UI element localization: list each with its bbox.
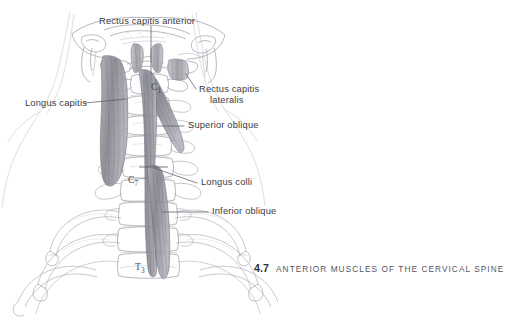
muscle-longus-capitis	[100, 56, 127, 186]
vertebra-marker-t3: T3	[135, 261, 145, 275]
vertebra-marker-c7-letter: C	[128, 174, 135, 185]
label-rectus-capitis-lateralis-line1: Rectus capitis	[199, 84, 259, 94]
label-inferior-oblique: Inferior oblique	[212, 206, 276, 217]
muscle-rectus-capitis-anterior	[131, 44, 163, 73]
label-rectus-capitis-anterior: Rectus capitis anterior	[99, 16, 195, 27]
figure-caption: 4.7 ANTERIOR MUSCLES OF THE CERVICAL SPI…	[254, 262, 504, 274]
vertebra-marker-c7: C7	[128, 174, 139, 188]
label-superior-oblique: Superior oblique	[188, 120, 259, 131]
label-rectus-capitis-lateralis: Rectus capitis lateralis	[199, 84, 277, 107]
muscle-rectus-capitis-lateralis	[168, 59, 189, 80]
vertebra-marker-c1-letter: C	[151, 81, 158, 92]
figure-caption-title: ANTERIOR MUSCLES OF THE CERVICAL SPINE	[276, 264, 504, 274]
label-longus-colli: Longus colli	[201, 177, 252, 188]
figure-canvas: Rectus capitis anterior Rectus capitis l…	[0, 0, 523, 318]
vertebra-marker-c7-number: 7	[135, 179, 139, 188]
figure-number: 4.7	[254, 262, 269, 274]
vertebra-marker-c1-number: 1	[158, 86, 162, 95]
vertebra-marker-t3-number: 3	[141, 266, 145, 275]
label-longus-capitis: Longus capitis	[25, 98, 87, 109]
label-rectus-capitis-lateralis-line2: lateralis	[210, 95, 244, 106]
vertebra-marker-c1: C1	[151, 81, 162, 95]
